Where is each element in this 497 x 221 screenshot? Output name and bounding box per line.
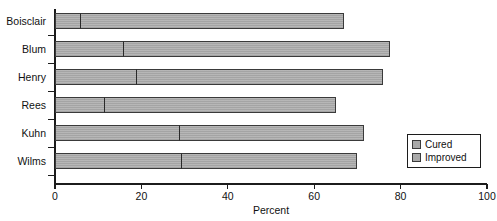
x-axis-tick-0 xyxy=(54,184,55,189)
y-axis-label-1: Blum xyxy=(0,43,46,55)
x-axis-tick-label-0: 0 xyxy=(52,190,58,202)
bar-segment-improved xyxy=(124,41,390,57)
legend-label-cured: Cured xyxy=(425,139,452,150)
legend-item-cured: Cured xyxy=(412,138,476,151)
x-axis-tick-label-2: 40 xyxy=(222,190,234,202)
legend-swatch-improved-icon xyxy=(412,153,421,162)
y-axis-tick-0 xyxy=(48,35,54,36)
bar-segment-cured xyxy=(55,13,81,29)
legend-label-improved: Improved xyxy=(425,152,467,163)
x-axis-tick-label-3: 60 xyxy=(308,190,320,202)
x-axis-tick-4 xyxy=(400,184,401,189)
y-axis-label-2: Henry xyxy=(0,71,46,83)
legend-swatch-cured-icon xyxy=(412,140,421,149)
x-axis-tick-2 xyxy=(227,184,228,189)
y-axis-tick-2 xyxy=(48,91,54,92)
y-axis-tick-1 xyxy=(48,63,54,64)
x-axis-title: Percent xyxy=(55,204,487,216)
y-axis-label-5: Wilms xyxy=(0,155,46,167)
bar-segment-cured xyxy=(55,125,180,141)
x-axis-tick-3 xyxy=(314,184,315,189)
legend-item-improved: Improved xyxy=(412,151,476,164)
bar-chart: Boisclair Blum Henry Rees Kuhn Wilms xyxy=(0,0,497,221)
bar-segment-improved xyxy=(105,97,336,113)
y-axis-label-3: Rees xyxy=(0,99,46,111)
y-axis-tick-5 xyxy=(48,175,54,176)
y-axis-label-0: Boisclair xyxy=(0,15,46,27)
x-axis-tick-label-4: 80 xyxy=(395,190,407,202)
x-axis-tick-5 xyxy=(486,184,487,189)
bar-segment-improved xyxy=(182,153,357,169)
bar-segment-cured xyxy=(55,153,182,169)
x-axis-tick-1 xyxy=(141,184,142,189)
y-axis-label-4: Kuhn xyxy=(0,127,46,139)
bar-segment-improved xyxy=(81,13,345,29)
bar-segment-cured xyxy=(55,69,137,85)
bar-segment-cured xyxy=(55,41,124,57)
chart-legend: Cured Improved xyxy=(407,134,481,168)
x-axis-tick-label-5: 100 xyxy=(478,190,496,202)
y-axis-tick-4 xyxy=(48,147,54,148)
x-axis-tick-label-1: 20 xyxy=(136,190,148,202)
bar-segment-improved xyxy=(180,125,364,141)
y-axis-category-labels: Boisclair Blum Henry Rees Kuhn Wilms xyxy=(0,0,46,221)
bar-segment-cured xyxy=(55,97,105,113)
bar-segment-improved xyxy=(137,69,383,85)
y-axis-tick-3 xyxy=(48,119,54,120)
